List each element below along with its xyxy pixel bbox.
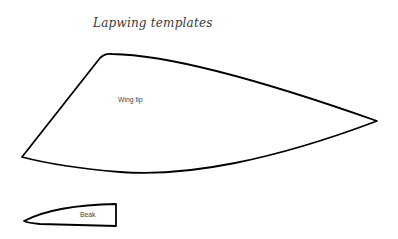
wing-tip-label: Wing tip	[118, 95, 143, 104]
beak-outline	[24, 204, 116, 226]
templates-canvas	[0, 0, 398, 239]
beak-label: Beak	[80, 210, 95, 219]
wing-tip-outline	[22, 54, 377, 173]
